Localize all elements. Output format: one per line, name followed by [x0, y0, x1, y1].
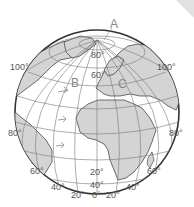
lon-label-60w: 60° [30, 167, 44, 176]
lon-label-20w: 20° [71, 191, 85, 200]
lat-label-80n: 80° [91, 51, 105, 60]
lon-label-40e: 40° [126, 183, 140, 192]
lon-label-60e: 60° [147, 167, 161, 176]
label-c: C [118, 78, 127, 90]
lon-label-100w: 100° [10, 63, 29, 72]
lat-label-40s: 40° [90, 181, 104, 190]
lon-label-80w: 80° [8, 129, 22, 138]
lat-label-20s: 20° [90, 168, 104, 177]
label-b: B [71, 77, 79, 89]
lat-label-60n: 60° [91, 71, 105, 80]
label-a: A [110, 18, 118, 30]
lon-label-100e: 100° [157, 63, 176, 72]
lon-label-0: 0° [92, 191, 101, 200]
lon-label-20e: 20° [106, 191, 120, 200]
lon-label-80e: 80° [169, 129, 183, 138]
globe-figure: A B C 80° 60° 20° 40° 100° 100° 80° 80° … [0, 0, 194, 207]
lon-label-40w: 40° [51, 183, 65, 192]
